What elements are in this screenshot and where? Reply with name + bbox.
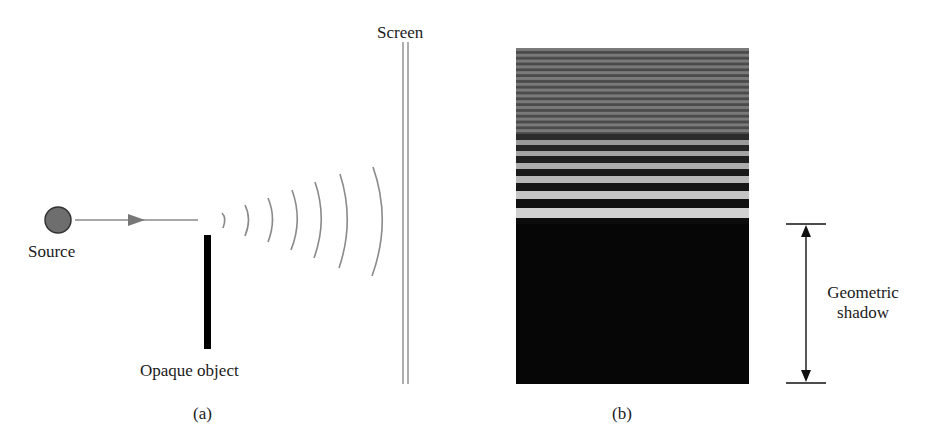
caption-a: (a) — [193, 405, 212, 422]
opaque-object-label: Opaque object — [140, 362, 239, 379]
fringe-svg — [516, 48, 749, 384]
fringe-band — [516, 134, 749, 140]
fringe-band — [516, 163, 749, 169]
fringe-band — [516, 183, 749, 191]
fringe-band — [516, 176, 749, 183]
wavefronts — [222, 167, 382, 276]
fringe-band — [516, 191, 749, 199]
fringe-band — [516, 169, 749, 176]
fringe-band — [516, 140, 749, 145]
arrow-up-icon — [801, 225, 811, 237]
source-dot — [45, 207, 71, 233]
caption-b: (b) — [612, 405, 632, 422]
fringe-band — [516, 199, 749, 208]
fringe-band — [516, 208, 749, 218]
shadow-label-line2: shadow — [820, 303, 906, 323]
screen-label: Screen — [377, 24, 423, 41]
diffraction-fringe-pattern — [516, 48, 749, 384]
shadow-label-line1: Geometric — [820, 283, 906, 303]
opaque-object — [204, 235, 211, 349]
shadow-label: Geometric shadow — [820, 283, 906, 323]
arrow-down-icon — [801, 370, 811, 382]
source-label: Source — [28, 243, 75, 260]
fringe-band — [516, 151, 749, 156]
fringe-band — [516, 145, 749, 151]
screen — [403, 42, 408, 384]
fringe-band — [516, 156, 749, 163]
ray-arrowhead-icon — [128, 214, 145, 226]
